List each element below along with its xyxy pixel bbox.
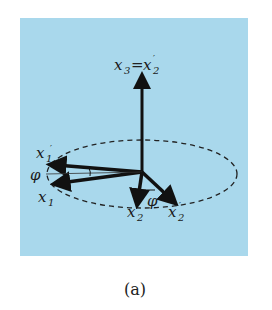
svg-text:x: x [114, 56, 123, 74]
svg-text:′: ′ [50, 144, 52, 154]
svg-text:2: 2 [136, 212, 143, 223]
svg-text:′: ′ [153, 54, 155, 64]
svg-text:2: 2 [177, 212, 184, 223]
svg-text:x: x [143, 56, 152, 74]
svg-text:3: 3 [124, 65, 130, 76]
label-x3-equals-x2prime: x 3 = x 2 ′ [114, 54, 159, 76]
rotation-diagram: x 3 = x 2 ′ x 1 ′ φ x 1 φ x 2 x 2 ′ (a) [0, 0, 272, 310]
figure-caption: (a) [124, 280, 146, 299]
svg-text:1: 1 [46, 153, 52, 164]
label-phi-left: φ [30, 166, 41, 184]
svg-text:=: = [131, 56, 144, 74]
label-phi-bottom: φ [147, 192, 158, 210]
svg-text:x: x [38, 188, 47, 206]
svg-text:x: x [127, 203, 136, 221]
svg-text:2: 2 [152, 65, 159, 76]
svg-text:x: x [36, 144, 45, 162]
label-x1-upper: x 1 ′ [36, 144, 52, 164]
svg-text:′: ′ [179, 201, 181, 211]
svg-text:x: x [168, 203, 177, 221]
svg-text:1: 1 [48, 197, 54, 208]
